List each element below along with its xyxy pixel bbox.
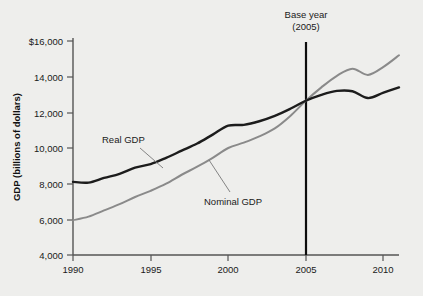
base-year-label-line2: (2005): [292, 21, 319, 32]
y-tick-label-6000: 6,000: [39, 215, 63, 226]
chart-background: [0, 0, 423, 296]
base-year-label-line1: Base year: [285, 9, 328, 20]
y-tick-label-16000: $16,000: [29, 36, 63, 47]
x-tick-label-2010: 2010: [372, 264, 393, 275]
x-tick-label-2005: 2005: [295, 264, 316, 275]
x-tick-label-1990: 1990: [62, 264, 83, 275]
y-tick-label-4000: 4,000: [39, 250, 63, 261]
gdp-line-chart: $16,000 14,000 12,000 10,000 8,000 6,000…: [0, 0, 423, 296]
y-tick-label-10000: 10,000: [34, 143, 63, 154]
nominal-gdp-label: Nominal GDP: [204, 196, 262, 207]
y-tick-label-14000: 14,000: [34, 72, 63, 83]
chart-figure: $16,000 14,000 12,000 10,000 8,000 6,000…: [0, 0, 423, 296]
y-tick-label-12000: 12,000: [34, 108, 63, 119]
real-gdp-label: Real GDP: [102, 134, 145, 145]
y-axis-title: GDP (billions of dollars): [11, 93, 22, 201]
x-tick-label-1995: 1995: [140, 264, 161, 275]
y-tick-label-8000: 8,000: [39, 179, 63, 190]
x-tick-label-2000: 2000: [217, 264, 238, 275]
